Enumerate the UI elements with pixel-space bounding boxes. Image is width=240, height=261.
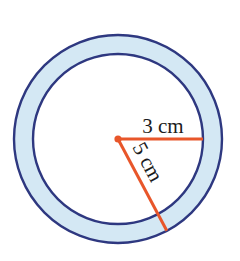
annulus-figure: 3 cm 5 cm [0,0,240,261]
center-point-dot [114,135,121,142]
annulus-diagram-canvas: 3 cm 5 cm [0,0,240,261]
inner-radius-label: 3 cm [142,114,183,138]
